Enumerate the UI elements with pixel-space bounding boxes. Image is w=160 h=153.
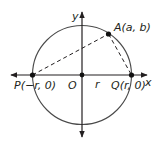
circle-diagram: y x A(a, b) P(−r, 0) O r Q(r, 0) [0, 0, 160, 153]
radius-label: r [95, 78, 101, 91]
point-q [129, 72, 134, 77]
point-p [30, 72, 35, 77]
point-a-label: A(a, b) [113, 21, 151, 34]
origin-label: O [68, 79, 77, 92]
segment-pa [33, 34, 109, 75]
y-axis-label: y [71, 10, 79, 23]
point-a [106, 31, 111, 36]
point-p-label: P(−r, 0) [14, 79, 56, 92]
point-origin [80, 73, 85, 78]
segment-aq [109, 34, 132, 75]
point-q-label: Q(r, 0) [111, 79, 146, 92]
